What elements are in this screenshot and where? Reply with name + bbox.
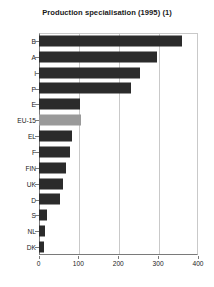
- bar-eu-15: [39, 115, 81, 126]
- x-tick-mark-400: [198, 256, 199, 259]
- bar-row: [39, 65, 199, 81]
- x-tick-mark-0: [39, 256, 40, 259]
- bar-uk: [39, 178, 64, 189]
- bar-row: [39, 192, 199, 208]
- bar-row: [39, 207, 199, 223]
- bars-layer: [39, 33, 199, 255]
- bar-dk: [39, 242, 45, 253]
- bar-row: [39, 33, 199, 49]
- x-tick-mark-200: [118, 256, 119, 259]
- chart-title: Production specialisation (1995) (1): [0, 8, 214, 17]
- bar-el: [39, 131, 72, 142]
- bar-row: [39, 223, 199, 239]
- bar-row: [39, 81, 199, 97]
- x-tick-label-100: 100: [73, 260, 84, 267]
- bar-s: [39, 210, 48, 221]
- x-axis-labels: 0100200300400: [0, 256, 214, 276]
- x-tick-mark-100: [78, 256, 79, 259]
- bar-row: [39, 239, 199, 255]
- chart-container: Production specialisation (1995) (1) BAI…: [0, 0, 214, 287]
- x-tick-mark-300: [158, 256, 159, 259]
- bar-row: [39, 176, 199, 192]
- bar-a: [39, 51, 157, 62]
- x-tick-label-400: 400: [192, 260, 203, 267]
- bar-b: [39, 35, 183, 46]
- bar-row: [39, 112, 199, 128]
- bar-row: [39, 144, 199, 160]
- bar-row: [39, 49, 199, 65]
- bar-row: [39, 96, 199, 112]
- bar-d: [39, 194, 61, 205]
- bar-f: [39, 146, 71, 157]
- bar-fin: [39, 162, 66, 173]
- bar-e: [39, 99, 80, 110]
- bar-p: [39, 83, 132, 94]
- bar-i: [39, 67, 140, 78]
- x-tick-label-300: 300: [153, 260, 164, 267]
- x-tick-label-200: 200: [113, 260, 124, 267]
- y-axis-labels: BAIPEEU-15ELFFINUKDSNLDK: [0, 33, 39, 255]
- bar-row: [39, 128, 199, 144]
- bar-nl: [39, 226, 46, 237]
- x-tick-label-0: 0: [37, 260, 41, 267]
- bar-row: [39, 160, 199, 176]
